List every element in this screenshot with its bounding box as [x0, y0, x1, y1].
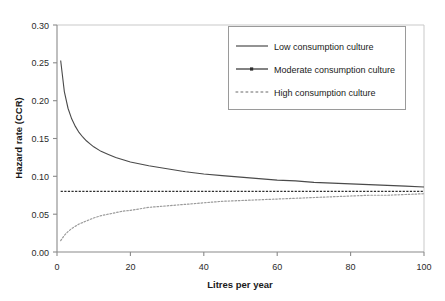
x-tick-label: 0: [54, 262, 59, 272]
hazard-rate-chart: 0.30 0.25 0.20 0.15 0.10 0.05 0.00 0 20 …: [0, 0, 445, 301]
y-tick-label: 0.25: [31, 58, 49, 68]
x-tick-label: 80: [346, 262, 356, 272]
x-tick-label: 20: [125, 262, 135, 272]
x-tick-label: 100: [416, 262, 431, 272]
legend-label-low: Low consumption culture: [274, 42, 374, 52]
x-tick-label: 60: [272, 262, 282, 272]
y-tick-label: 0.05: [31, 210, 49, 220]
y-tick-label: 0.15: [31, 134, 49, 144]
y-axis-title: Hazard rate (CCR): [13, 97, 24, 178]
figure-canvas: 0.30 0.25 0.20 0.15 0.10 0.05 0.00 0 20 …: [0, 0, 445, 301]
y-tick-label: 0.00: [31, 248, 49, 258]
legend-label-moderate: Moderate consumption culture: [274, 65, 395, 75]
legend-label-high: High consumption culture: [274, 88, 376, 98]
legend-swatch-dashdot-marker: [250, 67, 253, 70]
y-tick-label: 0.20: [31, 96, 49, 106]
y-tick-label: 0.10: [31, 172, 49, 182]
y-tick-label: 0.30: [31, 21, 49, 31]
legend: Low consumption culture Moderate consump…: [229, 27, 406, 110]
x-axis-title: Litres per year: [207, 279, 273, 290]
x-tick-label: 40: [199, 262, 209, 272]
